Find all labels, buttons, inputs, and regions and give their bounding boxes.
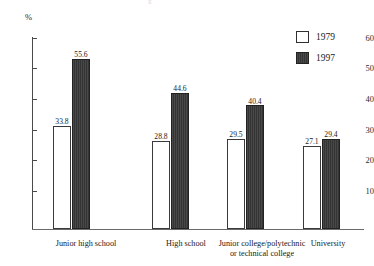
legend-item-1979[interactable]: 1979 <box>296 31 335 43</box>
y-axis-tick-20 <box>32 160 37 161</box>
y-axis-label-30: 30 <box>348 126 374 135</box>
bar-value-1997-university: 29.4 <box>314 131 348 139</box>
y-axis-tick-40 <box>32 99 37 100</box>
y-axis-label-20: 20 <box>348 156 374 165</box>
x-axis-label-university: University <box>288 239 368 249</box>
y-axis-tick-50 <box>32 68 37 69</box>
bar-1979-junior-college <box>227 139 245 229</box>
open-square-swatch-icon <box>296 31 309 43</box>
bar-1997-junior-high-school <box>72 59 90 229</box>
y-axis-label-50: 50 <box>348 64 374 73</box>
filled-square-swatch-icon <box>296 52 309 64</box>
bar-1997-junior-college <box>246 105 264 229</box>
bar-value-1997-junior-high-school: 55.6 <box>64 51 98 59</box>
y-axis-unit-label: % <box>25 13 32 22</box>
y-axis-tick-30 <box>32 130 37 131</box>
y-axis-tick-10 <box>32 191 37 192</box>
legend: 1979 1997 <box>296 31 335 73</box>
bar-1997-university <box>322 139 340 229</box>
bar-1997-high-school <box>171 93 189 230</box>
x-axis-line <box>32 229 364 230</box>
legend-item-1997[interactable]: 1997 <box>296 52 335 64</box>
clipped-title-fragment: g <box>148 0 152 5</box>
y-axis-tick-60 <box>32 38 37 39</box>
bar-1979-high-school <box>152 141 170 229</box>
bar-chart: g % 60 50 40 30 20 10 33.8 55.6 28.8 44.… <box>0 0 374 266</box>
y-axis-label-10: 10 <box>348 187 374 196</box>
legend-label-1979: 1979 <box>316 32 335 42</box>
y-axis-label-40: 40 <box>348 95 374 104</box>
bar-1979-university <box>303 146 321 229</box>
y-axis-line <box>32 37 33 230</box>
bar-value-1997-high-school: 44.6 <box>163 85 197 93</box>
bar-value-1997-junior-college: 40.4 <box>238 98 272 106</box>
x-axis-label-junior-high-school: Junior high school <box>27 239 145 249</box>
bar-1979-junior-high-school <box>53 126 71 230</box>
y-axis-label-60: 60 <box>348 34 374 43</box>
legend-label-1997: 1997 <box>316 53 335 63</box>
